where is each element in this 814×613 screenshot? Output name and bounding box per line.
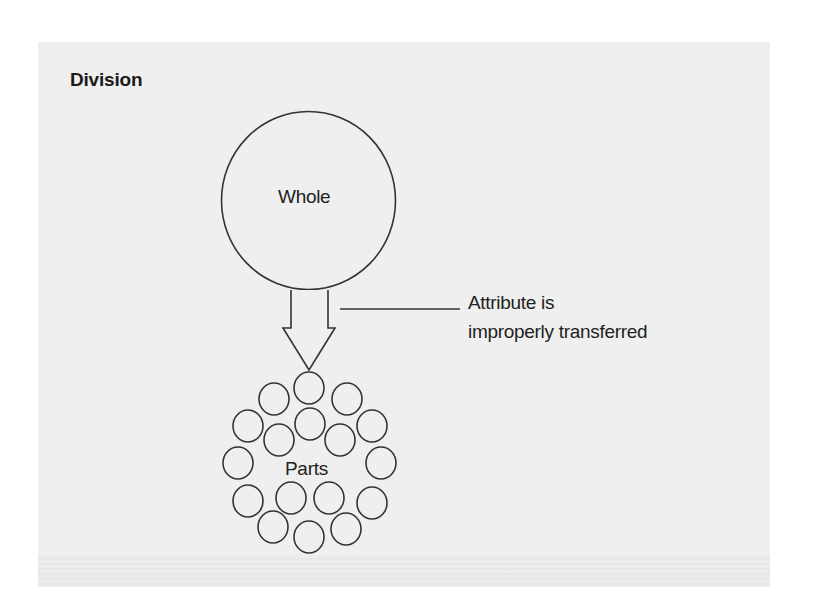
part-circle — [357, 410, 387, 442]
part-circle — [314, 482, 344, 514]
part-circle — [233, 485, 263, 517]
part-circle — [294, 521, 324, 553]
part-circle — [223, 447, 253, 479]
annotation-line-2: improperly transferred — [468, 317, 647, 346]
part-circle — [294, 372, 324, 404]
diagram-canvas — [0, 0, 814, 613]
part-circle — [332, 383, 362, 415]
part-circle — [276, 482, 306, 514]
part-circle — [264, 424, 294, 456]
part-circle — [325, 424, 355, 456]
whole-label: Whole — [278, 186, 330, 208]
parts-label: Parts — [285, 458, 328, 480]
annotation-text: Attribute is improperly transferred — [468, 288, 647, 346]
down-arrow-icon — [283, 290, 335, 370]
annotation-line-1: Attribute is — [468, 288, 647, 317]
part-circle — [259, 383, 289, 415]
part-circle — [295, 408, 325, 440]
part-circle — [258, 511, 288, 543]
part-circle — [357, 487, 387, 519]
part-circle — [233, 410, 263, 442]
part-circle — [331, 513, 361, 545]
part-circle — [366, 447, 396, 479]
